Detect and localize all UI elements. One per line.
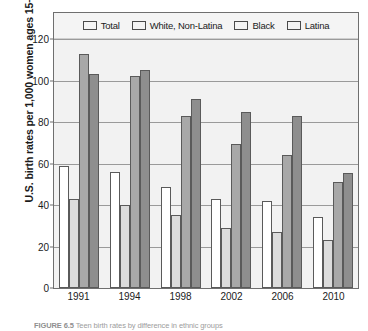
bar-1998-black[interactable] bbox=[181, 116, 191, 288]
bar-1991-total[interactable] bbox=[59, 166, 69, 288]
bar-1994-white-non-latina[interactable] bbox=[120, 205, 130, 288]
x-tick-label-1998: 1998 bbox=[155, 291, 206, 302]
bar-1994-latina[interactable] bbox=[140, 70, 150, 288]
bar-2002-black[interactable] bbox=[231, 144, 241, 288]
bar-group-1994 bbox=[105, 39, 156, 288]
plot-frame: Total White, Non-Latina Black Latina 020… bbox=[53, 12, 359, 289]
legend-label-white-non-latina: White, Non-Latina bbox=[150, 20, 223, 31]
chart-legend: Total White, Non-Latina Black Latina bbox=[54, 13, 358, 39]
bar-2006-total[interactable] bbox=[262, 201, 272, 288]
gridline-0 bbox=[54, 288, 358, 289]
bar-1994-black[interactable] bbox=[130, 76, 140, 288]
x-tick-label-2002: 2002 bbox=[206, 291, 257, 302]
bar-group-1991 bbox=[54, 39, 105, 288]
legend-item-white-non-latina[interactable]: White, Non-Latina bbox=[132, 20, 223, 31]
bar-2006-latina[interactable] bbox=[292, 116, 302, 288]
bar-1991-white-non-latina[interactable] bbox=[69, 199, 79, 288]
y-tick-label-80: 80 bbox=[38, 117, 49, 128]
bar-1998-white-non-latina[interactable] bbox=[171, 215, 181, 288]
x-tick-label-1994: 1994 bbox=[104, 291, 155, 302]
figure-caption-label: FIGURE 6.5 bbox=[34, 321, 74, 330]
x-tick-label-2006: 2006 bbox=[257, 291, 308, 302]
y-tick-label-0: 0 bbox=[43, 283, 49, 294]
plot-canvas: 020406080100120 bbox=[54, 39, 358, 288]
legend-label-total: Total bbox=[101, 20, 120, 31]
legend-swatch-white-non-latina bbox=[132, 21, 146, 30]
bar-2010-white-non-latina[interactable] bbox=[323, 240, 333, 288]
legend-item-latina[interactable]: Latina bbox=[287, 20, 330, 31]
legend-label-latina: Latina bbox=[305, 20, 330, 31]
bar-2006-white-non-latina[interactable] bbox=[272, 232, 282, 288]
bar-1994-total[interactable] bbox=[110, 172, 120, 288]
y-tick-label-20: 20 bbox=[38, 241, 49, 252]
y-tick-label-120: 120 bbox=[32, 34, 49, 45]
figure-container: U.S. birth rates per 1,000 women ages 15… bbox=[0, 0, 368, 331]
figure-caption: FIGURE 6.5 Teen birth rates by differenc… bbox=[34, 321, 364, 330]
legend-swatch-black bbox=[234, 21, 248, 30]
bar-2002-white-non-latina[interactable] bbox=[221, 228, 231, 288]
y-tick-label-100: 100 bbox=[32, 75, 49, 86]
bar-2006-black[interactable] bbox=[282, 155, 292, 288]
bar-1991-latina[interactable] bbox=[89, 74, 99, 288]
bar-1991-black[interactable] bbox=[79, 54, 89, 288]
figure-caption-text: Teen birth rates by difference in ethnic… bbox=[76, 321, 223, 330]
bar-2002-latina[interactable] bbox=[241, 112, 251, 288]
bar-group-1998 bbox=[155, 39, 206, 288]
y-tick-label-40: 40 bbox=[38, 200, 49, 211]
bar-groups bbox=[54, 39, 358, 288]
x-tick-label-1991: 1991 bbox=[53, 291, 104, 302]
bar-group-2006 bbox=[257, 39, 308, 288]
legend-item-total[interactable]: Total bbox=[83, 20, 120, 31]
x-axis-tick-labels: 199119941998200220062010 bbox=[53, 291, 359, 302]
bar-1998-latina[interactable] bbox=[191, 99, 201, 288]
legend-swatch-total bbox=[83, 21, 97, 30]
y-tick-label-60: 60 bbox=[38, 158, 49, 169]
bar-group-2010 bbox=[307, 39, 358, 288]
bar-1998-total[interactable] bbox=[161, 187, 171, 288]
bar-2010-black[interactable] bbox=[333, 182, 343, 288]
legend-label-black: Black bbox=[252, 20, 274, 31]
bar-2002-total[interactable] bbox=[211, 199, 221, 288]
bar-2010-latina[interactable] bbox=[343, 173, 353, 288]
x-tick-label-2010: 2010 bbox=[308, 291, 359, 302]
bar-group-2002 bbox=[206, 39, 257, 288]
bar-2010-total[interactable] bbox=[313, 217, 323, 288]
legend-swatch-latina bbox=[287, 21, 301, 30]
legend-item-black[interactable]: Black bbox=[234, 20, 274, 31]
